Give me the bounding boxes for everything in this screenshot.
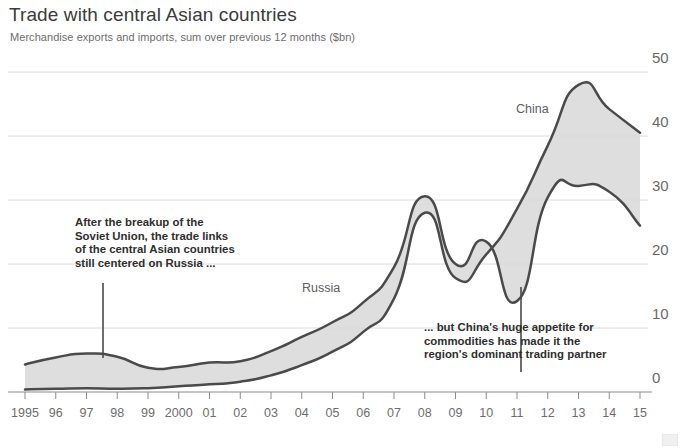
annotation-russia: After the breakup of the Soviet Union, t… [75,216,235,270]
series-label-russia: Russia [302,281,340,295]
annotation-russia-line-3: of the central Asian countries [75,243,235,257]
annotation-china-line-1: ... but China's huge appetite for [424,321,606,335]
annotation-china-line-2: commodities has made it the [424,335,606,349]
annotation-russia-line-4: still centered on Russia ... [75,257,235,271]
annotation-russia-line-2: Soviet Union, the trade links [75,230,235,244]
corner-artifact [662,434,678,446]
y-axis-label-0: 0 [652,369,660,386]
x-axis-label-2015: 15 [620,406,660,420]
annotation-china: ... but China's huge appetite for commod… [424,321,606,362]
annotation-china-line-3: region's dominant trading partner [424,348,606,362]
series-label-china: China [516,102,549,116]
chart-page: Trade with central Asian countries Merch… [0,0,681,448]
y-axis-label-50: 50 [652,49,669,66]
x-axis [8,392,652,399]
annotation-russia-line-1: After the breakup of the [75,216,235,230]
y-axis-label-40: 40 [652,113,669,130]
y-axis-label-30: 30 [652,177,669,194]
y-axis-label-20: 20 [652,241,669,258]
y-axis-label-10: 10 [652,305,669,322]
